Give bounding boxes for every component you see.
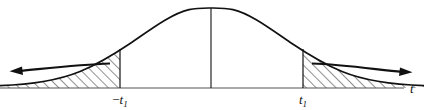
axis-label: t (410, 81, 414, 96)
left-critical-value-label: −t1 (112, 92, 127, 109)
right-tail-shaded-region (0, 8, 424, 88)
minus-sign: − (112, 92, 119, 107)
right-critical-value-label: t1 (299, 92, 307, 109)
bell-curve (0, 8, 424, 86)
distribution-figure: −t1 t1 t (0, 0, 424, 110)
left-tail-shaded-region (0, 8, 424, 88)
